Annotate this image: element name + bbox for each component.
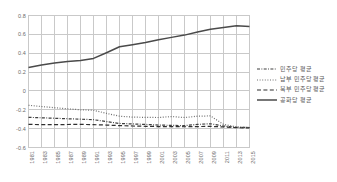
legend-item-label: 남부 민주당 평균 <box>278 76 325 83</box>
x-tick-label: 2015 <box>250 151 256 164</box>
x-tick-label: 1991 <box>94 151 100 164</box>
x-tick-label: 1993 <box>107 151 113 164</box>
y-tick-label: -0.2 <box>2 107 26 113</box>
legend-item[interactable]: 북부 민주당 평균 <box>256 85 337 95</box>
y-axis: 0.80.60.40.20-0.2-0.4-0.6 <box>0 15 26 148</box>
x-tick-label: 1989 <box>81 151 87 164</box>
x-tick-label: 2011 <box>224 151 230 163</box>
legend-item[interactable]: 남부 민주당 평균 <box>256 74 337 84</box>
x-tick-label: 2007 <box>198 151 204 164</box>
y-tick-label: 0.6 <box>2 31 26 37</box>
x-tick-label: 1987 <box>68 151 74 164</box>
x-tick-label: 1985 <box>55 151 61 164</box>
x-tick-label: 2003 <box>172 151 178 164</box>
x-tick-label: 1995 <box>120 151 126 164</box>
legend-item-label: 민주당 평균 <box>278 66 312 73</box>
y-tick-label: 0.8 <box>2 13 26 19</box>
y-tick-label: -0.4 <box>2 126 26 132</box>
y-tick-label: 0.4 <box>2 50 26 56</box>
y-tick-label: 0.2 <box>2 69 26 75</box>
x-tick-label: 2013 <box>237 151 243 164</box>
legend: 민주당 평균남부 민주당 평균북부 민주당 평균공화당 평균 <box>256 64 337 106</box>
y-tick-label: 0 <box>2 88 26 94</box>
plot-area <box>28 15 250 148</box>
legend-line-icon <box>256 64 278 74</box>
x-tick-label: 1997 <box>133 151 139 164</box>
legend-line-icon <box>256 95 278 105</box>
x-axis: 1981198319851987198919911993199519971999… <box>28 149 250 182</box>
legend-line-icon <box>256 75 278 85</box>
x-tick-label: 2001 <box>159 151 165 164</box>
legend-item[interactable]: 민주당 평균 <box>256 64 337 74</box>
x-tick-label: 1981 <box>29 151 35 164</box>
x-tick-label: 2005 <box>185 151 191 164</box>
y-tick-label: -0.6 <box>2 145 26 151</box>
legend-item-label: 북부 민주당 평균 <box>278 86 325 93</box>
line-chart: 0.80.60.40.20-0.2-0.4-0.6 19811983198519… <box>0 0 337 182</box>
series-line <box>29 26 250 68</box>
legend-item-label: 공화당 평균 <box>278 97 312 104</box>
series-lines <box>28 15 250 148</box>
legend-item[interactable]: 공화당 평균 <box>256 95 337 105</box>
x-tick-label: 1999 <box>146 151 152 164</box>
x-tick-label: 2009 <box>211 151 217 164</box>
legend-line-icon <box>256 85 278 95</box>
x-tick-label: 1983 <box>42 151 48 164</box>
